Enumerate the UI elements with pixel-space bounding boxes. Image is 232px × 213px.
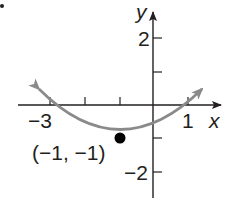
x-axis-label: x <box>208 109 221 132</box>
parabola-graph: y x −3 1 2 −2 (−1, −1) <box>0 0 232 213</box>
y-axis-label: y <box>134 0 148 23</box>
x-tick-label-neg3: −3 <box>28 109 52 132</box>
parabola-curve <box>39 89 202 130</box>
y-tick-label-neg2: −2 <box>124 161 148 184</box>
bullet-dot <box>0 4 4 8</box>
y-tick-label-2: 2 <box>138 27 150 50</box>
x-ticks <box>50 97 188 105</box>
x-tick-label-1: 1 <box>182 109 194 132</box>
vertex-label: (−1, −1) <box>32 141 106 164</box>
vertex-point <box>115 133 126 144</box>
